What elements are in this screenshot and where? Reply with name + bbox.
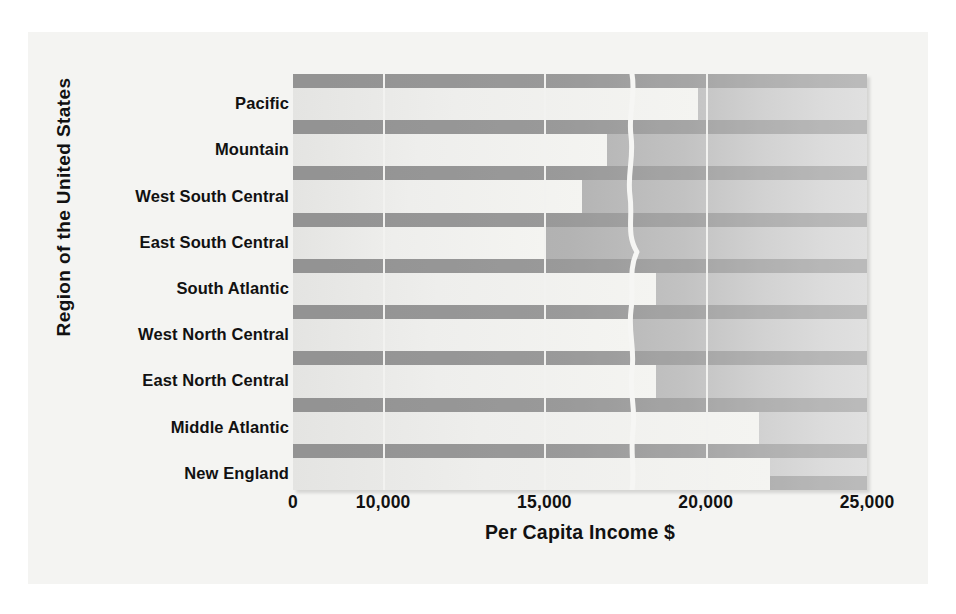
row-band (293, 120, 867, 134)
figure-root: Region of the United States PacificMount… (0, 0, 956, 614)
row-band (293, 259, 867, 273)
row-band (293, 305, 867, 319)
x-tick-label-25000: 25,000 (840, 492, 895, 513)
row-band (293, 74, 867, 88)
x-tick-label-20000: 20,000 (678, 492, 733, 513)
gridline-15000 (544, 74, 546, 490)
bar-mountain[interactable] (293, 134, 607, 166)
row-band (293, 351, 867, 365)
category-axis-labels: PacificMountainWest South CentralEast So… (60, 74, 289, 490)
category-label-new-england: New England (60, 464, 289, 483)
row-band (293, 398, 867, 412)
category-label-east-north-central: East North Central (60, 371, 289, 390)
bar-middle-atlantic[interactable] (293, 412, 759, 444)
row-band (293, 166, 867, 180)
bar-west-south-central[interactable] (293, 180, 582, 212)
category-label-middle-atlantic: Middle Atlantic (60, 418, 289, 437)
bar-east-south-central[interactable] (293, 227, 544, 259)
x-tick-label-15000: 15,000 (517, 492, 572, 513)
gridline-10000 (383, 74, 385, 490)
bar-new-england[interactable] (293, 458, 770, 490)
row-band (293, 444, 867, 458)
x-tick-label-0: 0 (288, 492, 298, 513)
x-axis-tick-labels: 010,00015,00020,00025,000 (0, 492, 956, 522)
x-tick-label-10000: 10,000 (356, 492, 411, 513)
bar-east-north-central[interactable] (293, 365, 656, 397)
gridline-20000 (706, 74, 708, 490)
axis-break-icon (623, 74, 641, 490)
x-axis-title: Per Capita Income $ (293, 521, 867, 544)
category-label-pacific: Pacific (60, 94, 289, 113)
category-label-west-south-central: West South Central (60, 187, 289, 206)
category-label-east-south-central: East South Central (60, 233, 289, 252)
plot-area (293, 74, 867, 490)
bar-west-north-central[interactable] (293, 319, 630, 351)
row-band (293, 213, 867, 227)
bar-south-atlantic[interactable] (293, 273, 656, 305)
category-label-west-north-central: West North Central (60, 325, 289, 344)
category-label-mountain: Mountain (60, 140, 289, 159)
category-label-south-atlantic: South Atlantic (60, 279, 289, 298)
